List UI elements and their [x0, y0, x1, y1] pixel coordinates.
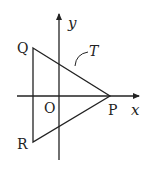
origin-label: O [44, 100, 55, 116]
triangle-t-label: T [89, 43, 100, 59]
triangle-qpr [33, 48, 110, 142]
x-axis-label: x [131, 101, 140, 119]
coordinate-diagram: y x O Q R P T [0, 0, 148, 182]
point-p-label: P [108, 102, 117, 118]
point-q-label: Q [17, 40, 28, 56]
t-leader-curve [75, 52, 88, 66]
y-axis-label: y [67, 14, 77, 32]
point-r-label: R [17, 136, 28, 152]
